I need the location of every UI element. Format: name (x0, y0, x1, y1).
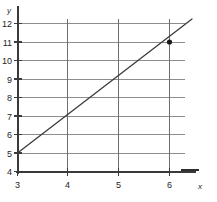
y-tick-label-4: 4 (7, 167, 12, 177)
y-tick-label-7: 7 (7, 112, 12, 122)
y-tick-label-11: 11 (3, 38, 12, 48)
line-chart-svg: 12 11 10 9 8 7 6 5 4 3 4 5 6 y x (0, 0, 217, 202)
y-tick-label-5: 5 (7, 149, 12, 159)
y-tick-label-8: 8 (7, 93, 12, 103)
x-tick-label-6: 6 (167, 180, 172, 190)
x-tick-label-5: 5 (116, 180, 121, 190)
y-tick-label-10: 10 (2, 56, 12, 66)
x-tick-label-4: 4 (65, 180, 70, 190)
y-tick-label-12: 12 (2, 19, 12, 29)
x-tick-label-3: 3 (15, 180, 20, 190)
y-tick-label-9: 9 (7, 75, 12, 85)
chart-figure: 12 11 10 9 8 7 6 5 4 3 4 5 6 y x (0, 0, 217, 202)
data-point-marker (167, 39, 172, 44)
y-tick-label-6: 6 (7, 130, 12, 140)
